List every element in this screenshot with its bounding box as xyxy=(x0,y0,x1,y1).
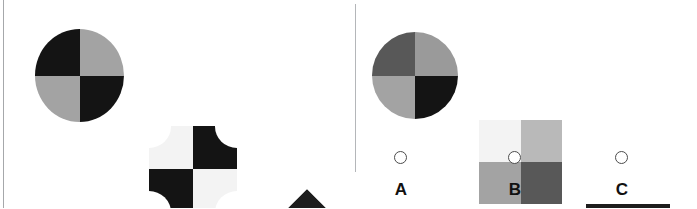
stem-figure-2-quadrant-top-left xyxy=(149,126,193,169)
corner-notch-bottom-right xyxy=(215,191,237,209)
stem-figure-1-quadrant-bottom-left xyxy=(35,76,80,123)
radio-b[interactable] xyxy=(508,151,521,164)
option-a-quadrant-bottom-left xyxy=(372,76,415,120)
option-a-figure[interactable] xyxy=(372,32,458,119)
stem-figure-1-quadrant-top-right xyxy=(80,29,125,76)
answer-options-panel: A B C xyxy=(356,0,697,208)
option-c-label: C xyxy=(610,181,634,198)
question-canvas: A B C xyxy=(0,0,697,208)
radio-c[interactable] xyxy=(615,151,628,164)
stem-figure-2-quadrant-top-right xyxy=(193,126,237,169)
option-a-quadrant-bottom-right xyxy=(415,76,458,120)
stem-figure-3-diamond-body xyxy=(242,189,372,208)
stem-figure-2-quadrant-bottom-left xyxy=(149,169,193,208)
corner-notch-bottom-left xyxy=(149,191,171,209)
option-c-figure[interactable] xyxy=(586,204,670,208)
option-a-label: A xyxy=(389,181,413,198)
option-b-label: B xyxy=(503,181,527,198)
stem-figure-1 xyxy=(35,29,124,122)
option-b-quadrant-top-right xyxy=(521,120,563,162)
stem-figure-3-quadrant-top-left xyxy=(274,189,339,208)
stem-figure-2-quadrant-bottom-right xyxy=(193,169,237,208)
radio-a[interactable] xyxy=(394,151,407,164)
option-a-quadrant-top-left xyxy=(372,32,415,76)
corner-notch-top-left xyxy=(149,126,171,148)
corner-notch-top-right xyxy=(215,126,237,148)
stem-figure-2 xyxy=(149,126,237,208)
analogy-stem-panel xyxy=(4,0,354,208)
option-a-quadrant-top-right xyxy=(415,32,458,76)
stem-figure-1-quadrant-top-left xyxy=(35,29,80,76)
stem-figure-1-quadrant-bottom-right xyxy=(80,76,125,123)
